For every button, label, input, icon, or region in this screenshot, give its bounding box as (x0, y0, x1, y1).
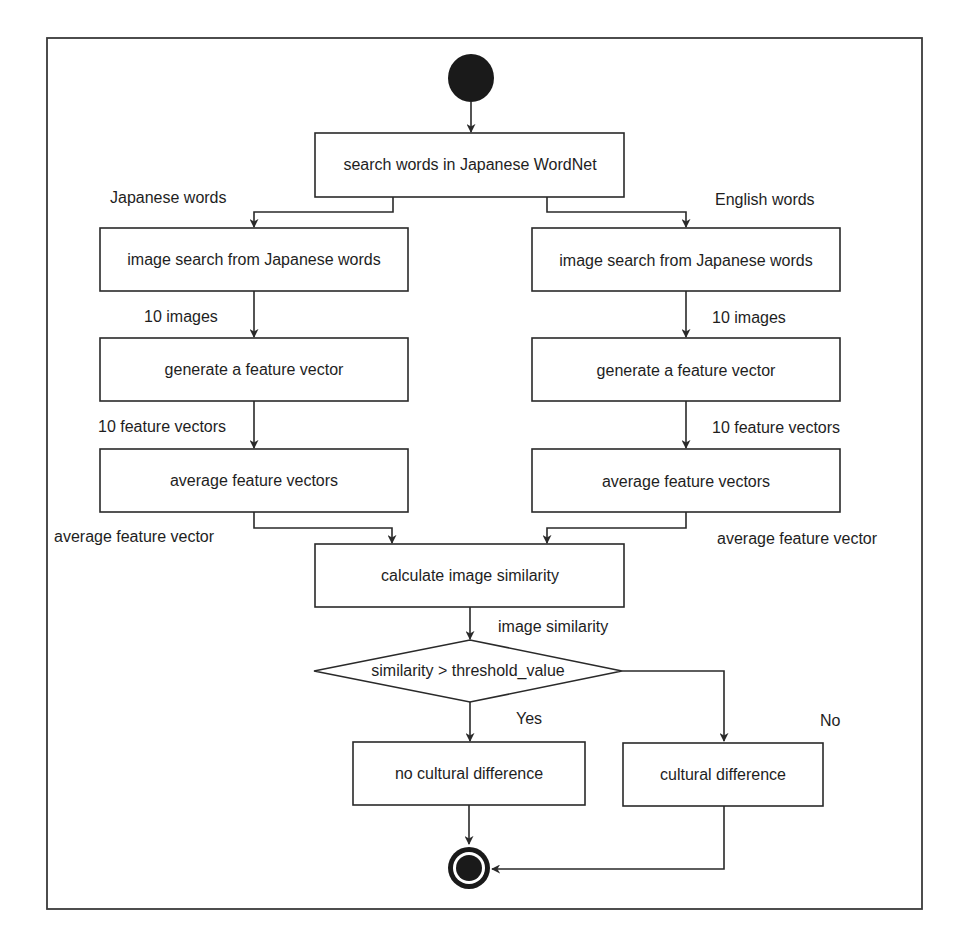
action-label: average feature vectors (170, 472, 338, 489)
action-calculate-similarity: calculate image similarity (315, 544, 624, 607)
edge-label-left-10-images: 10 images (144, 308, 218, 325)
edge-label-right-average-vector: average feature vector (717, 530, 878, 547)
edge-label-right-10-vectors: 10 feature vectors (712, 419, 840, 436)
initial-node-icon (448, 54, 494, 102)
decision-label: similarity > threshold_value (371, 662, 565, 680)
edge-label-image-similarity: image similarity (498, 618, 608, 635)
action-right-average-vectors: average feature vectors (532, 449, 840, 512)
action-label: image search from Japanese words (559, 252, 812, 269)
action-label: cultural difference (660, 766, 786, 783)
edge-label-japanese-words: Japanese words (110, 189, 227, 206)
action-left-average-vectors: average feature vectors (100, 449, 408, 512)
action-label: calculate image similarity (381, 567, 559, 584)
edge-label-yes: Yes (516, 710, 542, 727)
action-right-image-search: image search from Japanese words (532, 228, 840, 291)
edge-label-right-10-images: 10 images (712, 309, 786, 326)
action-label: no cultural difference (395, 765, 543, 782)
action-cultural-difference: cultural difference (623, 743, 823, 806)
action-left-generate-vector: generate a feature vector (100, 338, 408, 401)
edge-label-no: No (820, 712, 841, 729)
activity-diagram: search words in Japanese WordNet Japanes… (0, 0, 963, 949)
action-label: average feature vectors (602, 473, 770, 490)
action-search-wordnet: search words in Japanese WordNet (315, 133, 624, 197)
action-label: search words in Japanese WordNet (343, 156, 597, 173)
action-no-cultural-difference: no cultural difference (353, 742, 585, 805)
final-node-icon (448, 847, 490, 889)
action-right-generate-vector: generate a feature vector (532, 338, 840, 401)
action-label: generate a feature vector (165, 361, 344, 378)
action-left-image-search: image search from Japanese words (100, 228, 408, 291)
edge-label-english-words: English words (715, 191, 815, 208)
action-label: generate a feature vector (597, 362, 776, 379)
edge-label-left-average-vector: average feature vector (54, 528, 215, 545)
edge-label-left-10-vectors: 10 feature vectors (98, 418, 226, 435)
action-label: image search from Japanese words (127, 251, 380, 268)
